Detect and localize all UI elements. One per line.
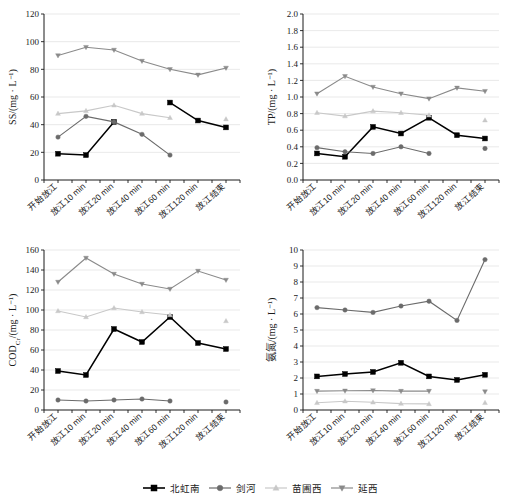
x-axis-category-labels: 开始放江放江10 min放江20 min放江40 min放江60 min放江12… (285, 181, 486, 221)
y-tick-label: 120 (26, 9, 40, 19)
x-tick-label: 放江结束 (194, 181, 227, 213)
series-triangle-down (315, 389, 488, 394)
x-axis-category-labels: 开始放江放江10 min放江20 min放江40 min放江60 min放江12… (285, 411, 486, 451)
y-tick-label: 160 (26, 245, 40, 255)
series-line (317, 260, 485, 321)
y-tick-label: 0 (35, 175, 40, 185)
y-tick-label: 100 (26, 37, 40, 47)
y-tick-label: 0 (35, 405, 40, 415)
data-point-marker-triangle-up (112, 103, 117, 107)
chart-svg-tp: 0.00.20.40.60.81.01.21.41.61.82.0开始放江放江1… (259, 0, 518, 238)
chart-panel-tp: 0.00.20.40.60.81.01.21.41.61.82.0开始放江放江1… (259, 0, 518, 238)
data-point-marker-circle (168, 153, 172, 157)
data-point-marker-circle (371, 310, 375, 314)
series-square (315, 115, 488, 159)
data-point-marker-circle (112, 398, 116, 402)
x-tick-label: 放江结束 (194, 411, 227, 443)
data-point-marker-square (483, 136, 488, 141)
y-axis-title: SS/(mg · L⁻¹) (7, 69, 19, 125)
legend-item[interactable]: 苗圃西 (265, 483, 322, 494)
data-point-marker-triangle-down (56, 280, 61, 284)
data-point-marker-circle (315, 305, 319, 309)
series-circle (56, 397, 228, 404)
y-tick-label: 100 (26, 305, 40, 315)
series-square (56, 315, 229, 378)
chart-panel-ammonia-nitrogen: 012345678910开始放江放江10 min放江20 min放江40 min… (259, 238, 518, 470)
data-point-marker-square (84, 153, 89, 158)
legend-label: 剑河 (236, 483, 256, 494)
data-point-marker-square (151, 485, 157, 491)
series-line (58, 122, 114, 155)
y-tick-label: 6 (294, 309, 299, 319)
legend-item[interactable]: 剑河 (209, 483, 256, 494)
y-tick-label: 0.8 (287, 109, 299, 119)
data-point-marker-square (168, 100, 173, 105)
y-tick-label: 1.6 (287, 42, 299, 52)
y-tick-label: 0.2 (287, 159, 298, 169)
data-point-marker-square (56, 369, 61, 374)
y-tick-label: 0.6 (287, 125, 299, 135)
series-triangle-up (56, 103, 229, 121)
data-point-marker-square (315, 151, 320, 156)
y-tick-label: 20 (30, 385, 40, 395)
data-point-marker-circle (140, 132, 144, 136)
data-point-marker-circle (399, 145, 403, 149)
y-tick-label: 0.0 (287, 175, 299, 185)
y-axis-title-text: TP/(mg · L⁻¹) (266, 69, 278, 125)
data-point-marker-square (399, 131, 404, 136)
data-point-marker-triangle-down (56, 54, 61, 58)
data-point-marker-triangle-down (483, 390, 488, 394)
data-point-marker-circle (112, 120, 116, 124)
data-point-marker-square (427, 374, 432, 379)
y-tick-label: 60 (30, 92, 40, 102)
data-point-marker-triangle-down (196, 73, 201, 77)
data-point-marker-square (315, 374, 320, 379)
data-point-marker-triangle-down (224, 278, 229, 282)
series-circle (315, 145, 487, 156)
y-tick-label: 1.4 (287, 59, 299, 69)
data-point-marker-square (371, 370, 376, 375)
y-tick-label: 4 (294, 341, 299, 351)
series-triangle-up (315, 399, 488, 406)
data-point-marker-square (140, 340, 145, 345)
data-point-marker-circle (140, 397, 144, 401)
data-point-marker-circle (168, 399, 172, 403)
data-point-marker-triangle-up (483, 118, 488, 122)
data-point-marker-square (343, 154, 348, 159)
data-point-marker-square (56, 151, 61, 156)
legend-label: 延西 (358, 483, 378, 494)
y-tick-label: 1 (294, 389, 299, 399)
x-axis-category-labels: 开始放江放江10 min放江20 min放江40 min放江60 min放江12… (26, 411, 227, 451)
data-point-marker-triangle-up (315, 110, 320, 114)
series-line (170, 103, 226, 128)
legend-item[interactable]: 北虹南 (143, 483, 200, 494)
y-tick-label: 1.8 (287, 26, 299, 36)
gridlines (303, 14, 499, 163)
data-point-marker-square (343, 372, 348, 377)
y-axis-title-text: 氨氮/(mg · L⁻¹) (265, 298, 278, 363)
chart-svg-cod: 020406080100120140160开始放江放江10 min放江20 mi… (0, 238, 259, 470)
series-group (315, 257, 488, 405)
data-point-marker-square (224, 125, 229, 130)
data-point-marker-circle (483, 146, 487, 150)
x-axis-category-labels: 开始放江放江10 min放江20 min放江40 min放江60 min放江12… (26, 181, 227, 221)
data-point-marker-circle (343, 308, 347, 312)
data-point-marker-triangle-up (224, 117, 229, 121)
chart-svg-ss: 020406080100120开始放江放江10 min放江20 min放江40 … (0, 0, 259, 238)
data-point-marker-circle (56, 398, 60, 402)
data-point-marker-triangle-up (483, 400, 488, 404)
y-tick-label: 1.2 (287, 76, 298, 86)
data-point-marker-square (112, 327, 117, 332)
data-point-marker-circle (84, 114, 88, 118)
data-point-marker-square (483, 372, 488, 377)
legend-svg: 北虹南剑河苗圃西延西 (0, 470, 518, 504)
legend-item[interactable]: 延西 (331, 483, 378, 494)
y-tick-label: 80 (30, 325, 40, 335)
y-tick-label: 1.0 (287, 92, 299, 102)
y-tick-label: 120 (26, 285, 40, 295)
chart-panel-cod: 020406080100120140160开始放江放江10 min放江20 mi… (0, 238, 259, 470)
data-point-marker-circle (483, 257, 487, 261)
data-point-marker-triangle-up (224, 318, 229, 322)
y-tick-label: 7 (294, 293, 299, 303)
y-axis-title-text: SS/(mg · L⁻¹) (7, 69, 19, 125)
